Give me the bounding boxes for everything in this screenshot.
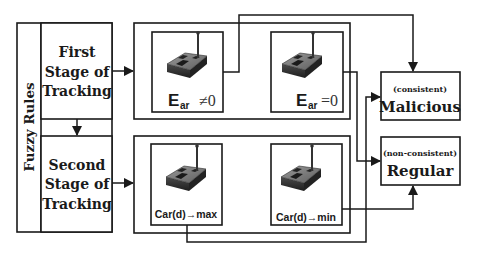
malicious-outcome: (consistent) Malicious [379, 72, 461, 120]
node-card-max: Car(d)→max [151, 144, 222, 225]
ear-subscript: ar [180, 100, 190, 111]
first-stage-line-3: Tracking [42, 83, 112, 99]
ear-relation: ≠0 [199, 92, 216, 109]
first-stage-line-2: Stage of [45, 64, 111, 80]
second-stage-line-3: Tracking [42, 196, 112, 212]
second-stage-node-group: Car(d)→max Car(d)→min [134, 136, 350, 233]
connector-card-min-to-regular [342, 186, 413, 209]
malicious-qualifier: (consistent) [393, 84, 447, 94]
second-stage-block: Second Stage of Tracking [41, 136, 112, 232]
first-stage-line-1: First [59, 44, 97, 60]
ear-symbol: E [168, 91, 179, 110]
node-card-min: Car(d)→min [271, 144, 342, 225]
ear-subscript: ar [308, 100, 318, 111]
ear-relation: =0 [321, 92, 338, 109]
first-stage-node-group: E ar ≠0 E ar =0 [134, 23, 350, 119]
regular-label: Regular [387, 162, 455, 180]
fuzzy-rules-label: Fuzzy Rules [21, 82, 37, 172]
ear-symbol: E [296, 91, 307, 110]
regular-outcome: (non-consistent) Regular [381, 137, 460, 185]
second-stage-line-1: Second [49, 157, 106, 173]
card-max-label: Car(d)→max [155, 208, 218, 220]
card-min-label: Car(d)→min [276, 211, 336, 223]
first-stage-block: First Stage of Tracking [41, 23, 112, 119]
node-ear-zero: E ar =0 [271, 31, 343, 112]
fuzzy-tracking-diagram: Fuzzy Rules First Stage of Tracking Seco… [0, 0, 478, 255]
second-stage-line-2: Stage of [45, 176, 111, 192]
malicious-label: Malicious [379, 98, 461, 116]
regular-qualifier: (non-consistent) [383, 148, 457, 158]
node-ear-nonzero: E ar ≠0 [152, 31, 223, 112]
